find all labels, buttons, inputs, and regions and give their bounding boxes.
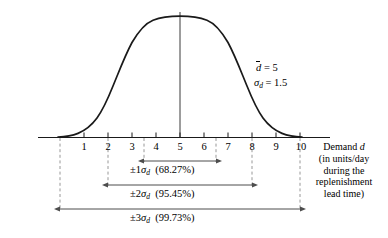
one-sigma-percent: (68.27%) xyxy=(155,164,194,175)
two-sigma-label: ±2σd (95.45%) xyxy=(130,188,195,201)
x-axis-caption-line-5: lead time) xyxy=(302,188,386,200)
three-sigma-percent: (99.73%) xyxy=(155,212,194,223)
x-tick-label-3: 3 xyxy=(122,141,142,152)
two-sigma-prefix: ±2 xyxy=(130,188,141,199)
one-sigma-label: ±1σd (68.27%) xyxy=(130,164,195,177)
x-tick-label-8: 8 xyxy=(242,141,262,152)
sigma-subscript: d xyxy=(259,81,263,90)
three-sigma-prefix: ±3 xyxy=(130,212,141,223)
x-tick-label-6: 6 xyxy=(194,141,214,152)
two-sigma-percent: (95.45%) xyxy=(155,188,194,199)
mean-annotation: d = 5 xyxy=(256,62,278,73)
x-axis-caption: Demand d (in units/day during the replen… xyxy=(302,141,386,200)
demand-variable: d xyxy=(360,141,365,152)
x-axis-caption-line-2: (in units/day xyxy=(302,153,386,165)
x-tick-label-1: 1 xyxy=(74,141,94,152)
x-tick-label-2: 2 xyxy=(98,141,118,152)
x-axis-caption-line-4: replenishment xyxy=(302,176,386,188)
distribution-plot-svg xyxy=(0,0,388,238)
x-tick-label-4: 4 xyxy=(146,141,166,152)
two-sigma-subscript: d xyxy=(146,192,150,201)
x-axis-ticks xyxy=(84,133,300,138)
demand-word: Demand d xyxy=(323,141,364,152)
sigma-annotation: σd = 1.5 xyxy=(254,77,287,90)
mean-value: = 5 xyxy=(264,62,278,73)
three-sigma-subscript: d xyxy=(146,216,150,225)
x-tick-label-7: 7 xyxy=(218,141,238,152)
three-sigma-label: ±3σd (99.73%) xyxy=(130,212,195,225)
normal-distribution-figure: 1 2 3 4 5 6 7 8 9 10 d = 5 σd = 1.5 ±1σd… xyxy=(0,0,388,238)
mean-symbol: d xyxy=(256,62,261,73)
x-axis-caption-line-3: during the xyxy=(302,165,386,177)
one-sigma-prefix: ±1 xyxy=(130,164,141,175)
x-axis-caption-line-1: Demand d xyxy=(302,141,386,153)
one-sigma-subscript: d xyxy=(146,168,150,177)
x-tick-label-9: 9 xyxy=(266,141,286,152)
sigma-value: = 1.5 xyxy=(266,77,288,88)
x-tick-label-5: 5 xyxy=(170,141,190,152)
